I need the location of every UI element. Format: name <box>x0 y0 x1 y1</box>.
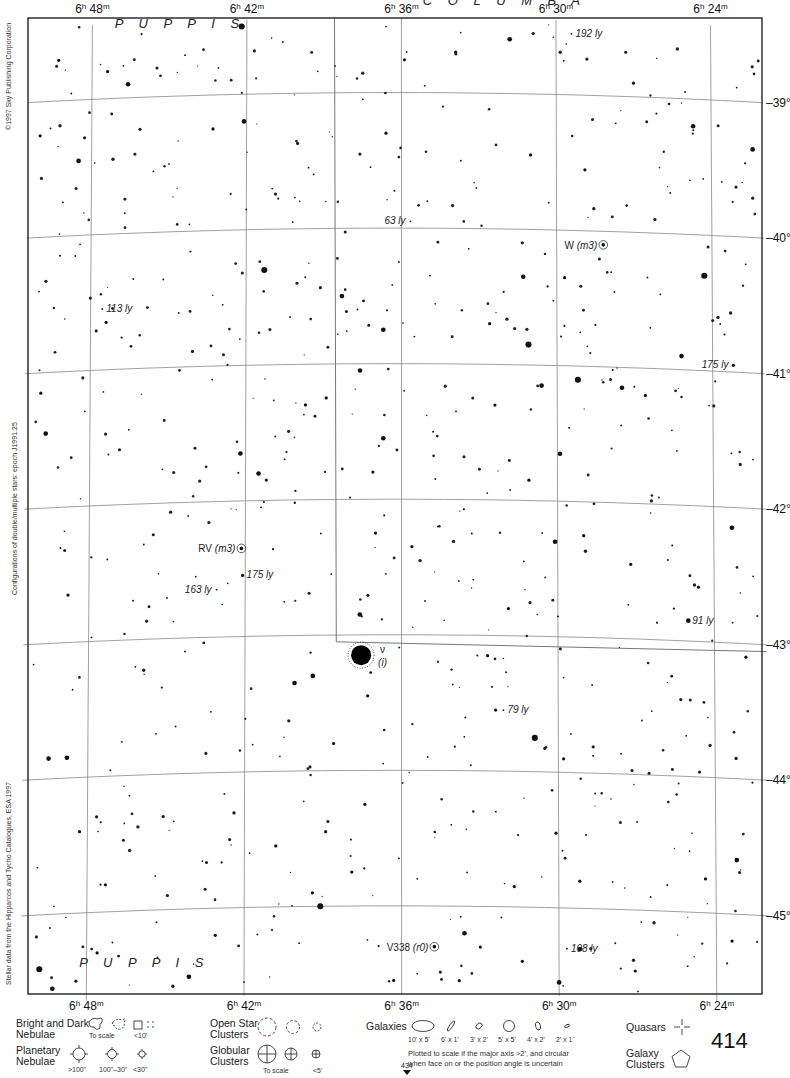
distance-label: 79 ly <box>507 704 529 715</box>
star <box>177 140 178 141</box>
star <box>334 65 336 67</box>
star <box>667 801 670 804</box>
star <box>292 681 297 686</box>
star <box>344 288 347 291</box>
star <box>252 398 253 399</box>
star <box>54 351 57 354</box>
star <box>330 573 332 575</box>
star <box>411 723 413 725</box>
star <box>287 430 290 433</box>
star <box>525 328 528 331</box>
star <box>168 830 169 831</box>
star <box>677 934 678 935</box>
star <box>735 757 738 760</box>
star <box>495 144 498 147</box>
star <box>478 468 481 471</box>
galaxy-note: Plotted to scale if the major axis >2', … <box>408 1049 569 1069</box>
star <box>551 599 554 602</box>
star <box>195 576 197 578</box>
star <box>734 186 737 189</box>
star <box>707 245 710 248</box>
star <box>197 65 198 66</box>
star <box>166 894 169 897</box>
star <box>99 884 101 886</box>
star <box>357 309 359 311</box>
star <box>697 586 700 589</box>
star <box>688 574 691 577</box>
distance-label: 175 ly <box>702 359 730 370</box>
star <box>452 540 455 543</box>
star <box>402 782 404 784</box>
star <box>736 566 739 569</box>
variable-star <box>433 945 437 949</box>
star <box>742 833 745 836</box>
star <box>687 965 689 967</box>
star <box>406 51 408 53</box>
star <box>230 79 233 82</box>
star <box>34 421 37 424</box>
star <box>90 948 93 951</box>
adjacent-page-reference[interactable]: 434 <box>401 1062 413 1069</box>
star <box>81 945 84 948</box>
star <box>689 850 691 852</box>
star-with-distance <box>571 33 573 35</box>
star <box>100 64 102 66</box>
star <box>340 294 345 299</box>
ra-tick-label: 6h 48m <box>69 999 104 1013</box>
star <box>65 70 66 71</box>
star <box>640 921 642 923</box>
star <box>59 255 61 257</box>
star <box>752 459 754 461</box>
dec-tick-label: –44° <box>766 773 790 787</box>
star <box>732 201 734 203</box>
star <box>471 972 474 975</box>
star <box>63 549 66 552</box>
dec-grid-line <box>22 770 767 780</box>
ra-axis-bottom: 6h 48m6h 42m6h 36m6h 30m6h 24m <box>69 999 734 1013</box>
star <box>426 200 428 202</box>
legend-planetary-size-2: 100"–30" <box>99 1066 127 1073</box>
star <box>36 966 42 972</box>
star <box>562 985 564 987</box>
star <box>571 135 574 138</box>
star <box>227 583 229 585</box>
star <box>418 559 421 562</box>
dec-tick-label: –43° <box>766 638 790 652</box>
star <box>546 285 548 287</box>
star <box>222 353 225 356</box>
star <box>658 497 660 499</box>
star <box>659 167 661 169</box>
star <box>325 201 327 203</box>
star <box>100 293 102 295</box>
star <box>204 752 207 755</box>
legend-galaxy-clusters-label: Galaxy Clusters <box>626 1048 665 1070</box>
star <box>508 459 511 462</box>
star <box>283 737 284 738</box>
star <box>399 147 402 150</box>
star <box>745 263 747 265</box>
star <box>59 233 61 235</box>
constellation-labels: P U P P I SC O L U M B AP U P P I S <box>79 0 586 970</box>
star <box>444 385 447 388</box>
galaxy-size-6: 2' x 1' <box>556 1036 574 1043</box>
star <box>459 511 460 512</box>
star <box>245 209 247 211</box>
star <box>175 726 177 728</box>
down-arrow-icon[interactable] <box>403 1070 411 1075</box>
star <box>650 896 652 898</box>
star-with-distance <box>101 308 103 310</box>
star <box>295 282 298 285</box>
star <box>541 532 543 534</box>
page-number: 414 <box>711 1028 748 1054</box>
star <box>388 980 390 982</box>
star <box>265 479 268 482</box>
star <box>238 451 243 456</box>
star <box>561 850 563 852</box>
star <box>118 448 121 451</box>
star <box>90 556 92 558</box>
star <box>566 504 568 506</box>
star <box>585 834 587 836</box>
star <box>544 577 546 579</box>
star <box>83 212 84 213</box>
star <box>128 429 130 431</box>
